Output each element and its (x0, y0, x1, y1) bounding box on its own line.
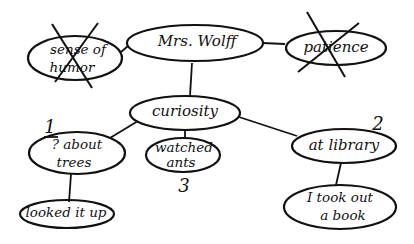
node-label-line2: a book (320, 207, 365, 223)
node-label: curiosity (152, 102, 219, 120)
node-watched-ants: watched ants 3 (146, 138, 220, 196)
order-number-label: 1 (44, 116, 55, 137)
node-label-line1: ? about (52, 136, 103, 152)
node-label: at library (309, 136, 380, 154)
node-label-line2: trees (57, 154, 92, 170)
node-looked-it-up: looked it up (20, 200, 114, 228)
edges (69, 43, 341, 202)
edge-trees-lookedup (69, 174, 71, 202)
order-number-label: 3 (178, 175, 189, 196)
node-label-line1: I took out (306, 189, 374, 205)
node-curiosity: curiosity (130, 96, 240, 130)
edge-curiosity-trees (110, 121, 138, 138)
order-number-label: 2 (371, 113, 383, 134)
node-about-trees: ? about trees 1 (29, 116, 125, 174)
edge-wolff-patience (262, 43, 285, 44)
node-mrs-wolff: Mrs. Wolff (127, 25, 263, 61)
node-label-line2: ants (166, 154, 195, 170)
node-label-line1: watched (155, 139, 213, 155)
edge-library-book (336, 163, 341, 185)
node-patience: patience (286, 12, 386, 77)
node-label-line2: humor (50, 59, 96, 75)
node-at-library: at library 2 (292, 113, 396, 163)
edge-curiosity-library (239, 117, 297, 136)
node-sense-of-humor: sense of humor (28, 23, 122, 88)
concept-map-canvas: sense of humor Mrs. Wolff patience curio… (0, 0, 414, 244)
node-took-out-book: I took out a book (284, 185, 396, 229)
concept-map-svg: sense of humor Mrs. Wolff patience curio… (0, 0, 414, 244)
edge-humor-wolff (121, 46, 128, 52)
edge-wolff-curiosity (190, 63, 192, 96)
node-label: looked it up (25, 204, 106, 220)
node-label: Mrs. Wolff (157, 32, 239, 50)
